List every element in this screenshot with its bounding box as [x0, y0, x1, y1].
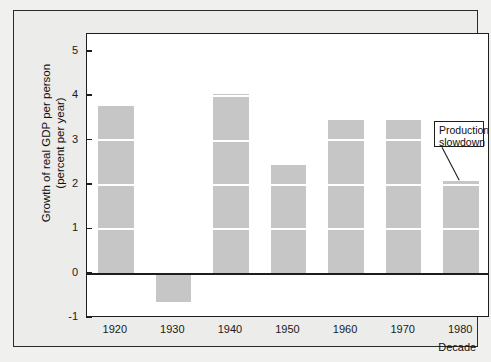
gridline-gap — [98, 228, 134, 230]
x-tick-label-1980: 1980 — [430, 323, 490, 335]
y-tick — [86, 228, 92, 230]
bar-1950 — [271, 165, 307, 274]
x-tick-label-1950: 1950 — [258, 323, 318, 335]
y-tick — [86, 94, 92, 96]
bar-1960 — [328, 120, 364, 274]
gridline-gap — [386, 184, 422, 186]
y-tick-label: -1 — [48, 310, 78, 322]
gridline-gap — [213, 140, 249, 142]
y-tick-label: 3 — [48, 133, 78, 145]
y-tick — [86, 272, 92, 274]
x-tick-label-1960: 1960 — [315, 323, 375, 335]
x-axis-label: Decade — [438, 341, 476, 353]
gridline-gap — [271, 184, 307, 186]
gridline-gap — [386, 228, 422, 230]
gridline-gap — [443, 228, 479, 230]
bar-1940 — [213, 94, 249, 274]
y-tick-label: 4 — [48, 88, 78, 100]
gridline-gap — [328, 184, 364, 186]
gridline-gap — [213, 184, 249, 186]
x-tick-label-1970: 1970 — [373, 323, 433, 335]
y-tick — [86, 139, 92, 141]
gridline-gap — [98, 139, 134, 141]
x-tick-label-1920: 1920 — [85, 323, 145, 335]
y-tick — [86, 50, 92, 52]
bar-1970 — [386, 120, 422, 274]
gridline-gap — [98, 184, 134, 186]
x-tick-label-1940: 1940 — [200, 323, 260, 335]
gridline-gap — [386, 139, 422, 141]
y-tick-label: 5 — [48, 44, 78, 56]
chart-figure: Growth of real GDP per person (percent p… — [0, 0, 491, 362]
gridline-gap — [213, 95, 249, 97]
chart-panel: Growth of real GDP per person (percent p… — [13, 10, 478, 347]
plot-area: Production slowdown — [86, 33, 489, 317]
gridline-gap — [271, 228, 307, 230]
gridline-gap — [213, 228, 249, 230]
y-tick-label: 1 — [48, 221, 78, 233]
bar-1930 — [156, 274, 192, 303]
annotation-production-slowdown: Production slowdown — [434, 121, 484, 147]
zero-baseline — [87, 273, 488, 276]
y-tick-label: 0 — [48, 266, 78, 278]
gridline-gap — [443, 184, 479, 186]
x-tick-label-1930: 1930 — [142, 323, 202, 335]
bar-1980 — [443, 181, 479, 273]
y-tick-label: 2 — [48, 177, 78, 189]
bar-1920 — [98, 106, 134, 274]
y-tick — [86, 183, 92, 185]
y-tick — [86, 316, 92, 318]
gridline-gap — [328, 228, 364, 230]
gridline-gap — [328, 139, 364, 141]
